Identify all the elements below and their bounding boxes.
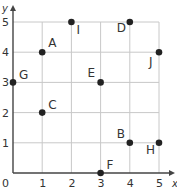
point-i: I <box>68 19 80 37</box>
point-label: I <box>76 23 80 37</box>
y-tick-label: 1 <box>2 137 9 150</box>
x-tick-label: 3 <box>98 177 105 190</box>
point-marker-icon <box>10 79 17 86</box>
y-tick-label: 3 <box>2 76 9 89</box>
point-marker-icon <box>156 140 163 147</box>
point-label: C <box>48 98 56 112</box>
point-label: D <box>117 21 126 35</box>
y-axis-arrow-icon <box>10 5 16 11</box>
point-h: H <box>146 140 162 157</box>
point-marker-icon <box>97 79 104 86</box>
y-tick-label: 2 <box>2 107 9 120</box>
point-d: D <box>117 19 133 35</box>
point-marker-icon <box>127 19 134 26</box>
tick-labels: 01234512345 <box>2 16 163 190</box>
axes: xy <box>1 3 177 189</box>
x-tick-label: 5 <box>156 177 163 190</box>
point-label: E <box>88 66 96 80</box>
y-tick-label: 5 <box>2 16 9 29</box>
point-marker-icon <box>39 49 46 56</box>
coordinate-grid-chart: xy 01234512345 ABCDEFGHIJ <box>0 0 177 191</box>
point-label: J <box>148 55 153 69</box>
point-label: A <box>48 36 57 50</box>
x-tick-label: 2 <box>68 177 75 190</box>
point-marker-icon <box>97 170 104 177</box>
point-marker-icon <box>156 49 163 56</box>
point-c: C <box>39 98 57 116</box>
x-tick-label: 1 <box>39 177 46 190</box>
x-tick-label: 4 <box>127 177 134 190</box>
x-tick-label: 0 <box>2 177 9 190</box>
y-axis-label: y <box>1 3 9 14</box>
x-axis-label: x <box>171 178 177 189</box>
data-points: ABCDEFGHIJ <box>10 19 163 177</box>
y-tick-label: 4 <box>2 46 9 59</box>
point-label: B <box>117 127 125 141</box>
point-marker-icon <box>68 19 75 26</box>
point-label: H <box>146 143 155 157</box>
point-label: F <box>107 158 114 172</box>
point-label: G <box>19 68 28 82</box>
point-marker-icon <box>127 140 134 147</box>
point-marker-icon <box>39 109 46 116</box>
grid-lines <box>13 22 159 173</box>
x-axis-arrow-icon <box>169 170 175 176</box>
